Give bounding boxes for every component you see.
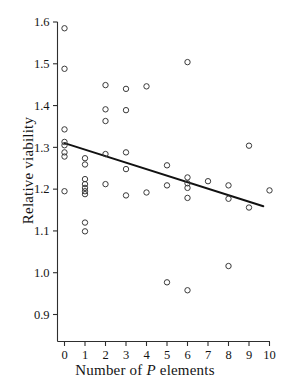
x-tick-label-2: 2 <box>102 348 108 362</box>
x-tick-label-9: 9 <box>246 348 252 362</box>
x-axis-title-italic-p: P <box>146 362 155 378</box>
x-tick-label-1: 1 <box>82 348 88 362</box>
y-tick-label-1.5: 1.5 <box>34 57 50 71</box>
x-axis-title: Number of P elements <box>0 362 290 379</box>
x-tick-label-6: 6 <box>184 348 190 362</box>
x-tick-label-0: 0 <box>61 348 67 362</box>
x-tick-label-10: 10 <box>263 348 276 362</box>
y-axis-title: Relative viability <box>20 81 37 261</box>
x-axis-title-prefix: Number of <box>75 362 146 378</box>
x-axis-title-suffix: elements <box>156 362 215 378</box>
y-tick-label-1.0: 1.0 <box>34 266 50 280</box>
x-tick-label-3: 3 <box>123 348 129 362</box>
x-tick-label-4: 4 <box>143 348 150 362</box>
y-tick-label-1.6: 1.6 <box>34 15 50 29</box>
x-tick-label-7: 7 <box>205 348 211 362</box>
x-tick-label-5: 5 <box>164 348 170 362</box>
x-tick-label-8: 8 <box>225 348 231 362</box>
plot-canvas: 0.91.01.11.21.31.41.51.6 012345678910 <box>0 0 290 392</box>
y-tick-label-0.9: 0.9 <box>34 308 50 322</box>
scatter-plot-figure: 0.91.01.11.21.31.41.51.6 012345678910 Nu… <box>0 0 290 392</box>
